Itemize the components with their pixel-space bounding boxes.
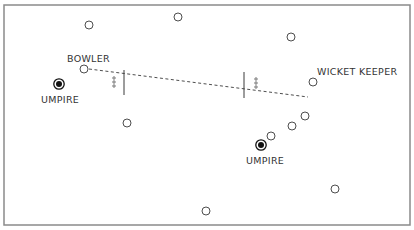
umpire-left-label: UMPIRE [41,94,79,105]
umpire-left-dot [56,81,62,87]
batsman-mark-dot [255,86,257,88]
fielder-marker [301,112,309,120]
fielder-marker [202,207,210,215]
fielder-marker [174,13,182,21]
fielder-marker [287,33,295,41]
players-group [80,13,339,215]
batsman-mark-dot [113,77,115,79]
bowler-label: BOWLER [67,53,110,64]
field-border [4,5,410,225]
batsman-mark-dot [113,85,115,87]
batsman-mark-dot [113,81,115,83]
fielder-marker [85,21,93,29]
batsman-mark-dot [255,82,257,84]
bowler-marker [80,65,88,73]
pitch-dashed-line [89,69,308,97]
umpire-right-dot [258,142,264,148]
fielder-marker [288,122,296,130]
batsman-marks-group [113,77,257,88]
fielder-marker [123,119,131,127]
wicket-keeper-label: WICKET KEEPER [317,66,397,77]
fielder-marker [331,185,339,193]
umpire-right-label: UMPIRE [246,155,284,166]
wicket-keeper-marker [309,78,317,86]
cricket-field-diagram: BOWLER WICKET KEEPER UMPIRE UMPIRE [0,0,414,230]
fielder-marker [267,132,275,140]
wickets-group [124,70,244,98]
umpires-group [54,79,266,150]
batsman-mark-dot [255,78,257,80]
